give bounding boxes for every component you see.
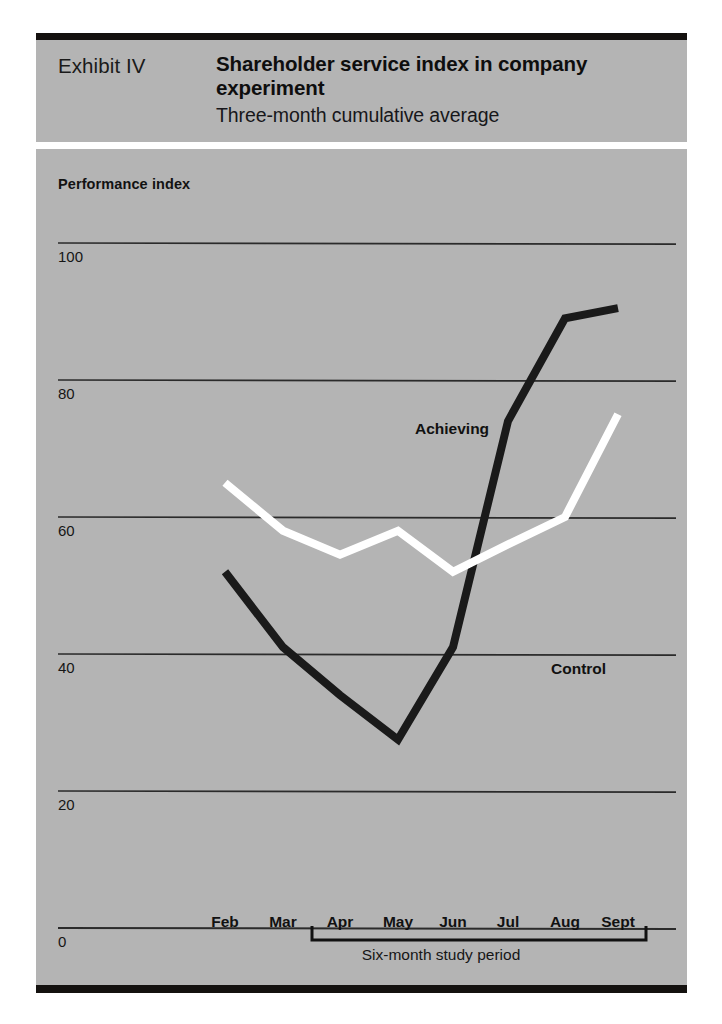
gridline (58, 243, 676, 244)
y-axis-tick-label: 80 (58, 385, 75, 402)
header-separator (36, 142, 687, 149)
line-chart-canvas (36, 149, 687, 985)
gridline (58, 517, 676, 518)
x-axis-tick-label: Jul (478, 913, 538, 931)
series-label-achieving: Achieving (415, 420, 489, 438)
y-axis-tick-label: 20 (58, 796, 75, 813)
x-axis-tick-label: May (368, 913, 428, 931)
bottom-rule (36, 985, 687, 993)
x-axis-tick-label: Mar (253, 913, 313, 931)
y-axis-tick-label: 100 (58, 248, 83, 265)
plot-panel: Performance index 020406080100 FebMarApr… (36, 149, 687, 985)
chart-subtitle: Three-month cumulative average (216, 104, 666, 127)
exhibit-label: Exhibit IV (58, 54, 146, 78)
x-axis-tick-label: Feb (195, 913, 255, 931)
y-axis-tick-label: 60 (58, 522, 75, 539)
top-rule (36, 33, 687, 40)
chart-title: Shareholder service index in company exp… (216, 52, 666, 100)
y-axis-tick-label: 40 (58, 659, 75, 676)
series-label-control: Control (551, 660, 606, 678)
x-axis-tick-label: Jun (423, 913, 483, 931)
title-block: Shareholder service index in company exp… (216, 52, 666, 128)
x-axis-tick-label: Sept (588, 913, 648, 931)
gridline (58, 654, 676, 655)
exhibit-figure: Exhibit IV Shareholder service index in … (36, 33, 687, 992)
gridline (58, 380, 676, 381)
x-axis-tick-label: Aug (535, 913, 595, 931)
study-period-caption: Six-month study period (291, 946, 591, 964)
y-axis-tick-label: 0 (58, 933, 66, 950)
gridlines (58, 243, 676, 929)
x-axis-tick-label: Apr (310, 913, 370, 931)
header-panel: Exhibit IV Shareholder service index in … (36, 40, 687, 142)
gridline (58, 791, 676, 792)
